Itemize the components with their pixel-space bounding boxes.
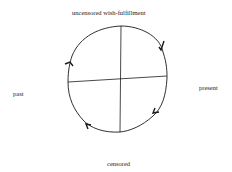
arrow-icon-upper-left [65,62,73,66]
label-past: past [13,90,23,97]
label-uncensored-wish-fulfillment: uncensored wish-fulfillment [72,9,145,16]
label-censored: censored [107,160,130,167]
arrow-icon-lower-left [86,124,91,129]
arrow-icon-upper-right [159,41,164,50]
horizontal-axis [68,76,167,82]
cycle-diagram [0,0,232,172]
label-present: present [199,84,218,91]
